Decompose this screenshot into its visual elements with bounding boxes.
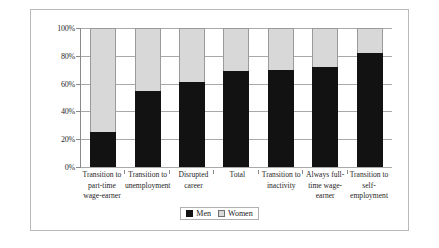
chart-legend: MenWomen [31,207,408,220]
x-axis-label-line: career [172,181,214,192]
bar-segment-men [223,71,249,167]
x-axis-tick [347,170,348,174]
x-axis-label-line: Transition to [125,170,171,181]
stacked-bar[interactable] [223,28,249,167]
x-axis-tick [302,170,303,174]
bar-segment-men [312,67,338,167]
x-axis-label-line: Disrupted [172,170,214,181]
bar-segment-women [135,28,161,91]
x-axis-label-line: self- [348,181,390,192]
x-axis-tick [169,170,170,174]
gridline [81,167,392,168]
x-axis-label-line: Transition to [348,170,390,181]
bar-slot [170,28,214,167]
stacked-bar[interactable] [135,28,161,167]
y-axis-tick-label: 60% [61,79,75,88]
bar-segment-women [179,28,205,82]
bar-slot [214,28,258,167]
bar-segment-men [357,53,383,167]
bar-segment-men [135,91,161,167]
x-axis-label-line: unemployment [125,181,171,192]
stacked-bar[interactable] [357,28,383,167]
legend-swatch-men [186,210,193,217]
bar-segment-women [90,28,116,132]
bar-segment-women [312,28,338,67]
bar-slot [259,28,303,167]
legend-label: Women [228,209,253,218]
bar-segment-women [268,28,294,70]
x-axis-label-line: Total [216,170,258,181]
bar-slot [348,28,392,167]
bar-slot [125,28,169,167]
x-axis-tick [258,170,259,174]
x-axis-label-line: Transition to [81,170,123,181]
stacked-bar[interactable] [179,28,205,167]
y-axis-tick-label: 40% [61,107,75,116]
x-axis-label: Transition tounemployment [124,170,172,202]
x-axis-tick [213,170,214,174]
y-axis-tick [76,167,81,168]
x-axis-label-line: wage-earner [81,191,123,202]
x-axis-label: Transition topart-timewage-earner [80,170,124,202]
bar-segment-men [268,70,294,167]
bar-slot [303,28,347,167]
x-axis-label-line: Transition to [260,170,302,181]
bar-slot [81,28,125,167]
bar-segment-women [357,28,383,53]
legend-label: Men [196,209,211,218]
plot-area: 0%20%40%60%80%100% [80,28,392,168]
stacked-bar[interactable] [268,28,294,167]
legend-item[interactable]: Men [186,209,211,218]
bar-segment-men [179,82,205,167]
x-axis-label: Transition toself-employment [347,170,391,202]
x-axis-label-line: earner [304,191,346,202]
x-axis-label-line: Always full- [304,170,346,181]
y-axis-tick-label: 0% [65,163,75,172]
legend-item[interactable]: Women [218,209,253,218]
y-axis-tick-label: 80% [61,51,75,60]
bar-segment-men [90,132,116,167]
x-axis-label-line: part-time [81,181,123,192]
y-axis-tick-label: 100% [57,24,75,33]
x-axis-labels: Transition topart-timewage-earnerTransit… [80,170,391,202]
bar-segment-women [223,28,249,71]
x-axis-label-line: employment [348,191,390,202]
x-axis-label: Always full-time wage-earner [303,170,347,202]
y-axis-tick-label: 20% [61,135,75,144]
bar-series-group [81,28,392,167]
stacked-bar[interactable] [90,28,116,167]
x-axis-tick [124,170,125,174]
stacked-bar[interactable] [312,28,338,167]
x-axis-label: Transition toinactivity [259,170,303,202]
x-axis-label: Disruptedcareer [171,170,215,202]
chart-figure: 0%20%40%60%80%100% Transition topart-tim… [30,9,409,231]
legend-swatch-women [218,210,225,217]
x-axis-label-line: time wage- [304,181,346,192]
legend-box: MenWomen [180,207,258,220]
x-axis-label: Total [215,170,259,202]
x-axis-label-line: inactivity [260,181,302,192]
